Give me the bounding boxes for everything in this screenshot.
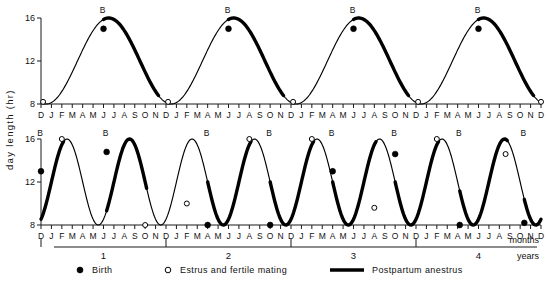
x-month-label: J (487, 110, 491, 120)
birth-marker (457, 222, 463, 228)
birth-label: B (329, 128, 335, 138)
x-month-label: M (69, 231, 76, 241)
x-month-label: J (101, 231, 105, 241)
birth-marker (38, 168, 44, 174)
postpartum-anestrus-segment (479, 18, 534, 96)
estrus-marker (416, 99, 421, 104)
birth-marker (392, 151, 398, 157)
estrus-marker (59, 137, 64, 142)
year-label: 3 (351, 250, 356, 261)
x-month-label: M (90, 231, 97, 241)
day-length-curve (41, 18, 541, 104)
x-month-label: J (487, 231, 491, 241)
x-month-label: M (194, 231, 201, 241)
x-month-label: S (382, 110, 388, 120)
x-month-label: J (112, 110, 116, 120)
x-month-label: A (496, 110, 502, 120)
x-month-label: O (517, 110, 524, 120)
x-month-label: J (226, 110, 230, 120)
x-month-label: S (382, 231, 388, 241)
x-month-label: J (174, 110, 178, 120)
postpartum-anestrus-segment (270, 142, 313, 225)
x-month-label: J (362, 110, 366, 120)
x-month-label: M (444, 231, 451, 241)
estrus-marker (247, 137, 252, 142)
x-month-label: M (340, 231, 347, 241)
x-month-label: M (465, 231, 472, 241)
y-axis-title: day length (hr) (4, 89, 15, 170)
legend: BirthEstrus and fertile matingPostpartum… (77, 265, 463, 275)
legend-anestrus-label: Postpartum anestrus (372, 265, 463, 275)
x-month-label: A (121, 231, 127, 241)
x-month-label: O (267, 110, 274, 120)
x-month-label: J (351, 231, 355, 241)
x-month-label: M (215, 231, 222, 241)
postpartum-anestrus-segment (395, 142, 438, 225)
x-month-label: A (80, 110, 86, 120)
x-month-label: S (507, 110, 513, 120)
x-month-label: J (424, 231, 428, 241)
x-month-label: M (319, 110, 326, 120)
x-month-label: J (49, 110, 53, 120)
birth-marker (521, 220, 527, 226)
chart-panel-short-cycle-breeder: 16128DJFMAMJJASONDJFMAMJJASONDJFMAMJJASO… (25, 128, 544, 241)
x-month-label: A (121, 110, 127, 120)
x-month-label: J (237, 110, 241, 120)
x-month-label: O (142, 110, 149, 120)
postpartum-anestrus-segment (354, 18, 409, 96)
x-month-label: N (278, 110, 284, 120)
y-tick-label: 8 (30, 220, 35, 230)
x-month-label: S (132, 231, 138, 241)
estrus-marker (372, 205, 377, 210)
estrus-marker (41, 99, 46, 104)
x-month-label: N (528, 110, 534, 120)
estrus-marker (143, 223, 148, 228)
x-month-label: S (257, 110, 263, 120)
x-month-label: A (371, 110, 377, 120)
x-month-label: M (465, 110, 472, 120)
x-month-label: D (288, 110, 294, 120)
postpartum-anestrus-segment (333, 142, 376, 225)
birth-label: B (350, 5, 356, 15)
birth-label: B (37, 128, 43, 138)
x-month-label: J (299, 231, 303, 241)
birth-label: B (456, 128, 462, 138)
figure-canvas: day length (hr)16128DJFMAMJJASONDJFMAMJJ… (0, 0, 548, 292)
x-month-label: F (309, 110, 314, 120)
x-month-label: J (174, 231, 178, 241)
x-month-label: D (538, 110, 544, 120)
birth-marker (205, 222, 211, 228)
postpartum-anestrus-segment (229, 18, 284, 96)
x-month-label: F (434, 231, 439, 241)
y-tick-label: 16 (25, 13, 35, 23)
y-tick-label: 12 (25, 177, 35, 187)
postpartum-anestrus-segment (104, 18, 159, 96)
year-label: 1 (101, 250, 106, 261)
y-tick-label: 12 (25, 56, 35, 66)
birth-marker (267, 222, 273, 228)
birth-marker (101, 26, 107, 32)
birth-label: B (266, 128, 272, 138)
x-month-label: J (49, 231, 53, 241)
x-month-label: O (267, 231, 274, 241)
x-month-label: A (455, 231, 461, 241)
birth-marker (351, 26, 357, 32)
x-month-label: A (205, 231, 211, 241)
legend-estrus-icon (165, 267, 171, 273)
birth-marker (104, 149, 110, 155)
legend-birth-icon (77, 267, 83, 273)
birth-label: B (225, 5, 231, 15)
x-month-label: J (362, 231, 366, 241)
x-month-label: S (257, 231, 263, 241)
birth-label: B (520, 128, 526, 138)
x-month-label: M (215, 110, 222, 120)
x-month-label: J (226, 231, 230, 241)
x-month-label: N (403, 231, 409, 241)
birth-label: B (103, 128, 109, 138)
x-month-label: O (392, 231, 399, 241)
x-month-label: F (59, 231, 64, 241)
x-month-label: M (69, 110, 76, 120)
x-month-label: M (444, 110, 451, 120)
x-month-label: J (299, 110, 303, 120)
x-month-label: A (205, 110, 211, 120)
